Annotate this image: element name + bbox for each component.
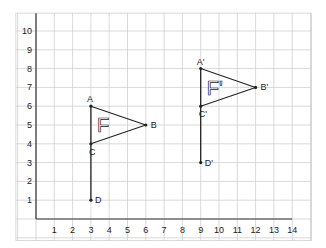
y-tick-label: 5 bbox=[27, 120, 32, 130]
x-tick-label: 3 bbox=[88, 225, 93, 235]
x-tick-label: 2 bbox=[70, 225, 75, 235]
x-tick-label: 11 bbox=[233, 225, 242, 235]
x-tick-label: 7 bbox=[162, 225, 167, 235]
point-b-prime bbox=[254, 86, 257, 89]
y-tick-label: 9 bbox=[27, 45, 32, 55]
y-tick-label: 6 bbox=[27, 101, 32, 111]
y-tick-label: 10 bbox=[22, 26, 32, 36]
point-label: D' bbox=[205, 158, 213, 168]
flag-f: ABCDF bbox=[87, 94, 157, 205]
x-tick-label: 12 bbox=[251, 225, 261, 235]
x-tick-label: 6 bbox=[143, 225, 148, 235]
point-label: A' bbox=[197, 57, 205, 67]
coordinate-grid: 123456789101112131412345678910 ABCDFA'B'… bbox=[0, 0, 326, 248]
y-tick-label: 7 bbox=[27, 82, 32, 92]
x-tick-label: 8 bbox=[180, 225, 185, 235]
y-tick-label: 2 bbox=[27, 176, 32, 186]
point-label: D bbox=[95, 195, 102, 205]
y-tick-label: 4 bbox=[27, 139, 32, 149]
flag-shapes: ABCDFA'B'C'D'F' bbox=[87, 57, 269, 206]
x-tick-label: 10 bbox=[214, 225, 224, 235]
letter-f-outline: F' bbox=[207, 77, 223, 99]
x-tick-label: 13 bbox=[269, 225, 279, 235]
point-a-prime bbox=[199, 67, 202, 70]
point-b bbox=[144, 123, 147, 126]
x-tick-label: 14 bbox=[287, 225, 297, 235]
point-c bbox=[89, 142, 92, 145]
point-d-prime bbox=[199, 161, 202, 164]
point-c-prime bbox=[199, 105, 202, 108]
flag-f-prime: A'B'C'D'F' bbox=[197, 57, 269, 168]
y-tick-label: 1 bbox=[27, 195, 32, 205]
point-a bbox=[89, 105, 92, 108]
point-label: C bbox=[89, 147, 96, 157]
grid-border bbox=[16, 13, 312, 240]
point-label: B' bbox=[261, 82, 269, 92]
x-tick-label: 1 bbox=[52, 225, 57, 235]
point-d bbox=[89, 199, 92, 202]
x-tick-label: 4 bbox=[107, 225, 112, 235]
grid-lines bbox=[16, 13, 312, 240]
x-tick-label: 9 bbox=[198, 225, 203, 235]
point-label: B bbox=[151, 120, 157, 130]
y-tick-label: 8 bbox=[27, 64, 32, 74]
x-tick-label: 5 bbox=[125, 225, 130, 235]
point-label: C' bbox=[199, 109, 207, 119]
point-label: A bbox=[87, 94, 93, 104]
letter-f-outline: F bbox=[97, 114, 109, 136]
y-tick-label: 3 bbox=[27, 158, 32, 168]
